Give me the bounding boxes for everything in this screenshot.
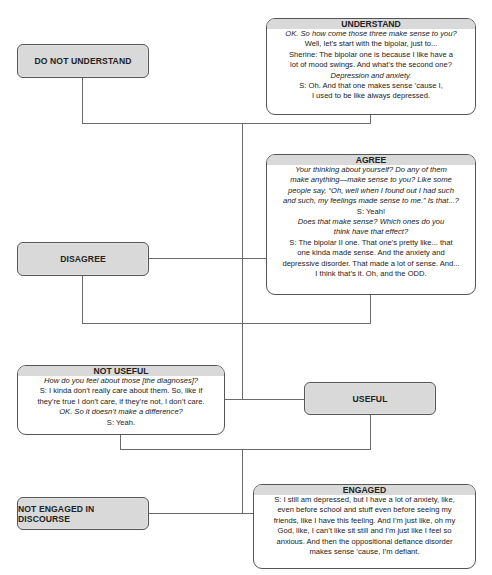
quote-line: makes sense ’cause, I’m defiant. — [258, 547, 471, 557]
quote-line: Sherine: The bipolar one is because I li… — [271, 50, 471, 60]
node-label: DO NOT UNDERSTAND — [34, 56, 131, 66]
quote-line: S: I still am depressed, but I have a lo… — [258, 495, 471, 505]
node-title: AGREE — [267, 155, 475, 165]
quote-line: S: Yeah! — [271, 207, 471, 217]
connector — [224, 399, 304, 400]
quote-line: depressive disorder. That made a lot of … — [271, 259, 471, 269]
node-useful: USEFUL — [304, 382, 436, 415]
quote-line: Depression and anxiety. — [271, 71, 471, 81]
quote-line: Your thinking about yourself? Do any of … — [271, 165, 471, 175]
quote-line: I used to be like always depressed. — [271, 91, 471, 101]
node-understand: UNDERSTAND OK. So how come those three m… — [266, 18, 476, 115]
quote-line: one kinda made sense. And the anxiety an… — [271, 248, 471, 258]
node-not-useful: NOT USEFUL How do you feel about those [… — [17, 365, 225, 435]
node-label: USEFUL — [353, 394, 388, 404]
quote-line: lot of mood swings. And what’s the secon… — [271, 60, 471, 70]
connector — [120, 449, 371, 450]
quote-line: Does that make sense? Which ones do you — [271, 217, 471, 227]
connector — [370, 114, 371, 123]
quote-line: think have that effect? — [271, 227, 471, 237]
node-not-engaged: NOT ENGAGED IN DISCOURSE — [17, 497, 149, 530]
quote-line: anxious. And then the oppositional defia… — [258, 537, 471, 547]
quote-line: Well, let’s start with the bipolar, just… — [271, 39, 471, 49]
connector — [82, 123, 371, 124]
quote-line: people say, “Oh, well when I found out I… — [271, 186, 471, 196]
quote-body: S: I still am depressed, but I have a lo… — [254, 495, 475, 557]
quote-line: OK. So it doesn’t make a difference? — [22, 407, 220, 417]
node-label: DISAGREE — [60, 254, 106, 264]
quote-line: they’re true I don’t care, if they’re no… — [22, 397, 220, 407]
quote-line: even before school and stuff even before… — [258, 505, 471, 515]
quote-line: and such, my feelings made sense to me.”… — [271, 196, 471, 206]
node-label: NOT ENGAGED IN DISCOURSE — [18, 504, 148, 524]
connector — [242, 449, 243, 513]
quote-body: How do you feel about those [the diagnos… — [18, 376, 224, 428]
quote-line: I think that’s it. Oh, and the ODD. — [271, 269, 471, 279]
quote-line: How do you feel about those [the diagnos… — [22, 376, 220, 386]
quote-line: S: Oh. And that one makes sense ’cause I… — [271, 81, 471, 91]
node-disagree: DISAGREE — [17, 242, 149, 276]
quote-line: God, like, I can’t like sit still and I’… — [258, 526, 471, 536]
node-title: NOT USEFUL — [18, 366, 224, 376]
connector — [82, 77, 83, 123]
connector — [370, 414, 371, 449]
connector — [242, 323, 243, 399]
connector — [120, 434, 121, 449]
quote-line: S: I kinda don’t really care about them.… — [22, 386, 220, 396]
quote-line: S: Yeah. — [22, 418, 220, 428]
connector — [242, 123, 243, 323]
node-title: UNDERSTAND — [267, 19, 475, 29]
connector — [148, 513, 253, 514]
node-engaged: ENGAGED S: I still am depressed, but I h… — [253, 484, 476, 569]
connector — [370, 294, 371, 323]
connector — [82, 323, 371, 324]
connector — [148, 258, 266, 259]
node-title: ENGAGED — [254, 485, 475, 495]
quote-line: friends, like I have this feeling. And I… — [258, 516, 471, 526]
connector — [82, 275, 83, 323]
quote-line: S: The bipolar II one. That one’s pretty… — [271, 238, 471, 248]
node-agree: AGREE Your thinking about yourself? Do a… — [266, 154, 476, 295]
quote-body: OK. So how come those three make sense t… — [267, 29, 475, 102]
quote-body: Your thinking about yourself? Do any of … — [267, 165, 475, 279]
quote-line: make anything—make sense to you? Like so… — [271, 175, 471, 185]
node-do-not-understand: DO NOT UNDERSTAND — [17, 44, 149, 78]
quote-line: OK. So how come those three make sense t… — [271, 29, 471, 39]
